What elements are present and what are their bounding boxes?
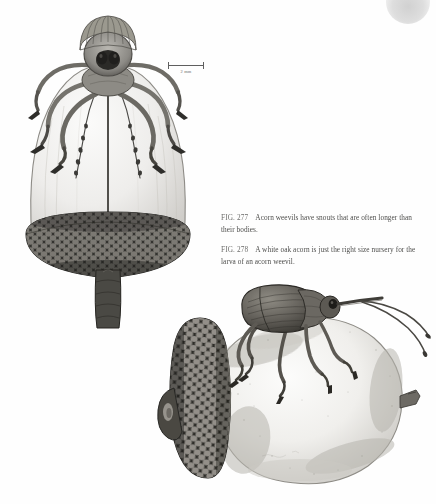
scale-bar-tick-left [168,62,169,69]
caption-figure-number: FIG. 277 [221,213,248,222]
weevil-rostrum [338,298,382,306]
caption-fig-277: FIG. 277 Acorn weevils have snouts that … [221,212,416,235]
scale-bar-label: 2 mm [168,69,204,75]
caption-figure-number: FIG. 278 [221,245,248,254]
figure-278-illustration [150,280,436,504]
acorn-stem [95,270,121,328]
weevil-eye [329,299,338,309]
figure-captions: FIG. 277 Acorn weevils have snouts that … [221,205,416,276]
caption-fig-278: FIG. 278 A white oak acorn is just the r… [221,244,416,267]
scale-bar: 2 mm [168,62,204,75]
antennae-club [422,333,432,358]
scale-bar-rule [168,62,204,69]
scale-bar-tick-right [203,62,204,69]
gray-blob-icon [386,0,430,24]
acorn-tip [400,390,420,408]
page-canvas: 2 mm FIG. 277 Acorn weevils have snouts … [0,0,436,504]
